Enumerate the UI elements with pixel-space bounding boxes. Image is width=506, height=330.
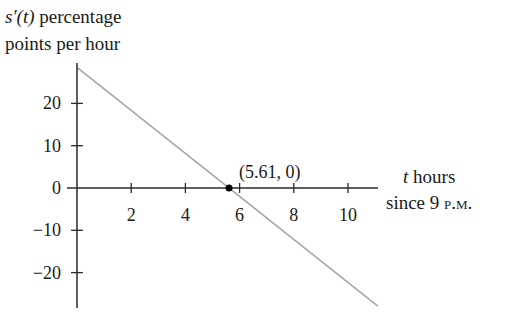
x-tick-label: 6 — [235, 205, 244, 225]
y-tick-label: −10 — [33, 220, 61, 240]
y-tick-label: 10 — [43, 136, 61, 156]
x-tick-label: 10 — [339, 205, 357, 225]
y-tick-label: 0 — [52, 178, 61, 198]
zero-point-label: (5.61, 0) — [239, 162, 301, 183]
zero-point-marker — [226, 185, 233, 192]
y-tick-label: −20 — [33, 263, 61, 283]
x-tick-label: 2 — [127, 205, 136, 225]
x-tick-label: 4 — [181, 205, 190, 225]
x-tick-label: 8 — [289, 205, 298, 225]
y-tick-label: 20 — [43, 93, 61, 113]
plot-area: 24681020100−10−20(5.61, 0) — [0, 0, 506, 330]
